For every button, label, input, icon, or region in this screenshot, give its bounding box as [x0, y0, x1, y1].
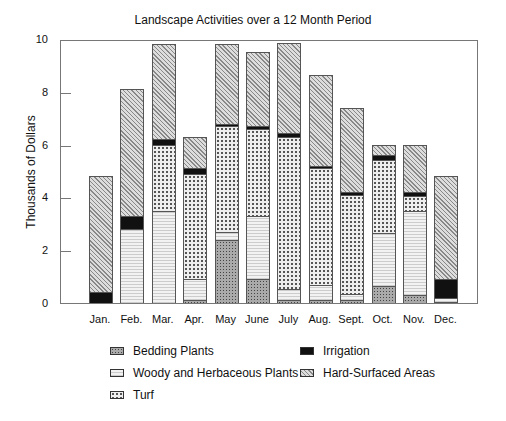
- bar-segment-turf: [215, 126, 239, 232]
- bar-feb: [120, 89, 144, 303]
- legend-label: Woody and Herbaceous Plants: [133, 366, 298, 380]
- y-tick-label: 8: [24, 86, 48, 98]
- y-tick-label: 10: [24, 33, 48, 45]
- bar-segment-bedding: [183, 300, 207, 303]
- bar-segment-woody: [246, 216, 270, 279]
- bar-segment-turf: [372, 160, 396, 233]
- bar-segment-hard: [89, 176, 113, 292]
- bar-segment-hard: [215, 44, 239, 123]
- bar-jan: [89, 176, 113, 303]
- legend-label: Turf: [133, 388, 154, 402]
- bar-segment-woody: [277, 289, 301, 301]
- bar-segment-turf: [340, 195, 364, 294]
- bar-segment-woody: [120, 229, 144, 303]
- y-tick-mark: [61, 93, 71, 94]
- bar-segment-hard: [309, 75, 333, 166]
- bar-segment-turf: [183, 174, 207, 280]
- legend-item-hard: Hard-Surfaced Areas: [300, 366, 435, 380]
- bar-aug: [309, 75, 333, 303]
- bar-segment-turf: [403, 196, 427, 211]
- bar-segment-woody: [372, 233, 396, 286]
- legend-swatch-icon: [110, 391, 124, 399]
- bar-segment-hard: [372, 145, 396, 156]
- bar-segment-turf: [277, 137, 301, 289]
- legend-item-bedding: Bedding Plants: [110, 344, 214, 358]
- bar-segment-hard: [246, 52, 270, 126]
- y-tick-mark: [61, 198, 71, 199]
- bar-may: [215, 44, 239, 303]
- bar-segment-hard: [340, 108, 364, 192]
- bar-segment-bedding: [246, 279, 270, 303]
- bar-sept: [340, 108, 364, 303]
- bar-segment-bedding: [277, 300, 301, 303]
- legend-swatch-icon: [110, 347, 124, 355]
- bar-segment-bedding: [372, 286, 396, 303]
- bar-apr: [183, 137, 207, 303]
- bar-mar: [152, 44, 176, 303]
- bar-segment-irrigation: [120, 216, 144, 229]
- y-tick-mark: [61, 146, 71, 147]
- bar-segment-irrigation: [434, 279, 458, 297]
- bar-july: [277, 43, 301, 303]
- bar-segment-woody: [403, 211, 427, 295]
- bar-nov: [403, 145, 427, 303]
- bar-segment-woody: [215, 232, 239, 240]
- legend-swatch-icon: [300, 369, 314, 377]
- y-tick-mark: [61, 251, 71, 252]
- y-tick-label: 4: [24, 191, 48, 203]
- x-tick-label: Dec.: [427, 313, 463, 325]
- legend-item-woody: Woody and Herbaceous Plants: [110, 366, 298, 380]
- y-tick-label: 2: [24, 244, 48, 256]
- bar-oct: [372, 145, 396, 303]
- bar-segment-hard: [277, 43, 301, 133]
- bar-segment-woody: [340, 294, 364, 301]
- bar-segment-turf: [152, 145, 176, 211]
- bar-segment-turf: [309, 168, 333, 284]
- bar-segment-irrigation: [89, 292, 113, 303]
- bar-segment-hard: [183, 137, 207, 169]
- bar-segment-bedding: [309, 300, 333, 303]
- legend-label: Bedding Plants: [133, 344, 214, 358]
- plot-area: [60, 40, 478, 304]
- bar-segment-hard: [152, 44, 176, 139]
- legend-item-turf: Turf: [110, 388, 154, 402]
- bar-segment-bedding: [340, 300, 364, 303]
- bar-segment-hard: [434, 176, 458, 279]
- bar-segment-turf: [246, 129, 270, 216]
- bar-segment-bedding: [434, 302, 458, 303]
- bar-segment-bedding: [215, 240, 239, 303]
- bar-segment-woody: [183, 279, 207, 300]
- bar-segment-bedding: [403, 295, 427, 303]
- legend-label: Hard-Surfaced Areas: [323, 366, 435, 380]
- legend-swatch-icon: [300, 347, 314, 355]
- legend-swatch-icon: [110, 369, 124, 377]
- bar-dec: [434, 176, 458, 303]
- y-tick-label: 0: [24, 297, 48, 309]
- bar-segment-woody: [152, 211, 176, 303]
- bar-segment-hard: [403, 145, 427, 193]
- y-tick-label: 6: [24, 139, 48, 151]
- legend-label: Irrigation: [323, 344, 370, 358]
- legend-item-irrigation: Irrigation: [300, 344, 370, 358]
- y-axis-label: Thousands of Dollars: [24, 97, 38, 247]
- bar-segment-woody: [309, 285, 333, 301]
- bar-segment-hard: [120, 89, 144, 216]
- bar-june: [246, 52, 270, 303]
- chart-title: Landscape Activities over a 12 Month Per…: [0, 13, 506, 27]
